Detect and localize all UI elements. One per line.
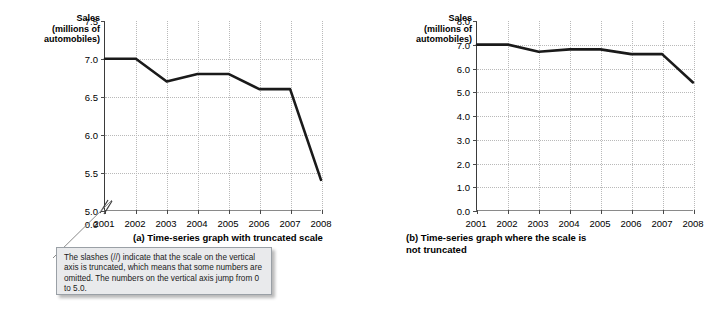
series-line xyxy=(105,59,321,180)
series-line xyxy=(477,45,693,83)
x-tick-label: 2004 xyxy=(558,218,579,229)
x-tick-mark xyxy=(136,210,137,214)
y-tick-label: 6.0 xyxy=(62,130,98,141)
figure-root: Sales (millions of automobiles) (a) Time… xyxy=(0,0,710,313)
x-tick-mark xyxy=(663,210,664,214)
x-tick-mark xyxy=(322,210,323,214)
x-tick-label: 2001 xyxy=(465,218,486,229)
x-tick-mark xyxy=(601,210,602,214)
x-tick-mark xyxy=(477,210,478,214)
y-tick-label: 0.0 xyxy=(434,206,470,217)
truncation-callout-text: The slashes (//) indicate that the scale… xyxy=(64,253,262,293)
x-tick-label: 2003 xyxy=(527,218,548,229)
y-tick-label: 4.0 xyxy=(434,111,470,122)
y-tick-label: 7.5 xyxy=(62,16,98,27)
plot-area-truncated xyxy=(104,21,321,211)
caption-b-line2: not truncated xyxy=(406,244,467,255)
caption-b: (b) Time-series graph where the scale is… xyxy=(406,232,666,255)
x-tick-label: 2002 xyxy=(496,218,517,229)
x-tick-mark xyxy=(291,210,292,214)
x-tick-mark xyxy=(570,210,571,214)
y-tick-label: 8.0 xyxy=(434,16,470,27)
y-tick-label: 1.0 xyxy=(434,182,470,193)
caption-a: (a) Time-series graph with truncated sca… xyxy=(133,232,363,244)
gridline-vertical xyxy=(694,21,695,210)
x-tick-mark xyxy=(167,210,168,214)
x-tick-label: 2006 xyxy=(248,218,269,229)
y-tick-label: 2.0 xyxy=(434,158,470,169)
x-tick-label: 2008 xyxy=(310,218,331,229)
x-tick-label: 2005 xyxy=(589,218,610,229)
x-tick-mark xyxy=(694,210,695,214)
y-tick-label: 7.0 xyxy=(62,54,98,65)
caption-b-line1: (b) Time-series graph where the scale is xyxy=(406,232,586,243)
gridline-vertical xyxy=(322,21,323,210)
y-tick-label: 5.5 xyxy=(62,168,98,179)
x-tick-label: 2007 xyxy=(279,218,300,229)
y-tick-label: 3.0 xyxy=(434,134,470,145)
x-tick-mark xyxy=(539,210,540,214)
y-tick-label: 5.0 xyxy=(434,87,470,98)
x-tick-label: 2008 xyxy=(682,218,703,229)
x-tick-mark xyxy=(229,210,230,214)
y-tick-label: 7.0 xyxy=(434,39,470,50)
x-tick-mark xyxy=(260,210,261,214)
data-series-not-truncated xyxy=(477,21,693,210)
x-tick-label: 2003 xyxy=(155,218,176,229)
x-tick-label: 2007 xyxy=(651,218,672,229)
y-tick-label: 6.5 xyxy=(62,92,98,103)
x-tick-label: 2005 xyxy=(217,218,238,229)
y-tick-label: 6.0 xyxy=(434,63,470,74)
x-tick-label: 2004 xyxy=(186,218,207,229)
x-tick-mark xyxy=(508,210,509,214)
x-tick-mark xyxy=(632,210,633,214)
truncation-callout-box: The slashes (//) indicate that the scale… xyxy=(56,247,272,295)
x-tick-label: 2006 xyxy=(620,218,641,229)
data-series-truncated xyxy=(105,21,321,210)
x-tick-mark xyxy=(198,210,199,214)
chart-panel-not-truncated: Sales (millions of automobiles) (b) Time… xyxy=(360,0,710,250)
plot-area-not-truncated xyxy=(476,21,693,211)
x-tick-label: 2002 xyxy=(124,218,145,229)
